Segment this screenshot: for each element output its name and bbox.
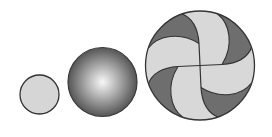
shaded-sphere xyxy=(68,48,137,117)
flat-disc xyxy=(20,75,59,114)
pinwheel-disc xyxy=(146,11,255,120)
diagram-canvas xyxy=(0,0,272,137)
diagram-svg xyxy=(0,0,272,137)
